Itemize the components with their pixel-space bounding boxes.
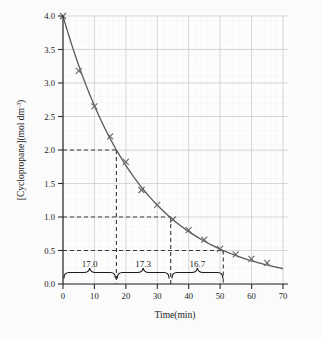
y-tick-label: 3.0 bbox=[44, 78, 55, 88]
half-life-label-2: 17.3 bbox=[135, 259, 151, 269]
x-tick-label: 40 bbox=[184, 291, 193, 301]
x-tick-label: 10 bbox=[90, 291, 99, 301]
y-tick-labels: 4.0 3.5 3.0 2.5 2.0 1.5 1.0 0.5 0.0 bbox=[44, 11, 55, 289]
x-tick-label: 30 bbox=[153, 291, 162, 301]
x-tick-label: 70 bbox=[279, 291, 288, 301]
y-tick-label: 2.5 bbox=[44, 112, 55, 122]
half-life-label-1: 17.0 bbox=[82, 259, 98, 269]
y-tick-label: 0.0 bbox=[44, 279, 55, 289]
y-tick-label: 3.5 bbox=[44, 45, 55, 55]
kinetics-decay-chart: 4.0 3.5 3.0 2.5 2.0 1.5 1.0 0.5 0.0 0 10… bbox=[0, 0, 321, 339]
y-tick-label: 4.0 bbox=[44, 11, 55, 21]
x-axis-title: Time(min) bbox=[155, 310, 196, 321]
y-axis-title: [Cyclopropane](mol dm bbox=[16, 108, 27, 201]
half-life-label-3: 16.7 bbox=[190, 259, 206, 269]
y-tick-label: 2.0 bbox=[44, 145, 55, 155]
y-tick-label: 1.0 bbox=[44, 212, 55, 222]
y-tick-label: 0.5 bbox=[44, 246, 55, 256]
y-axis-title-group: [Cyclopropane](mol dm-3) bbox=[15, 100, 27, 200]
y-tick-label: 1.5 bbox=[44, 179, 55, 189]
x-tick-label: 0 bbox=[61, 291, 65, 301]
svg-text:[Cyclopropane](mol dm-3): [Cyclopropane](mol dm-3) bbox=[15, 100, 27, 200]
y-axis-title-tail: ) bbox=[16, 100, 27, 103]
x-tick-label: 60 bbox=[247, 291, 256, 301]
chart-figure: 4.0 3.5 3.0 2.5 2.0 1.5 1.0 0.5 0.0 0 10… bbox=[0, 0, 321, 339]
x-tick-label: 50 bbox=[216, 291, 225, 301]
x-tick-label: 20 bbox=[122, 291, 131, 301]
